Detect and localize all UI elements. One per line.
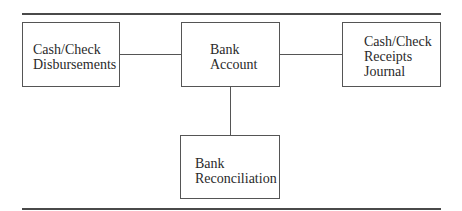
node-label-line: Receipts <box>364 49 440 64</box>
node-label-line: Account <box>210 57 279 72</box>
node-label-line: Bank <box>195 156 279 171</box>
edge-bank-account-to-receipts-journal <box>280 54 342 55</box>
edge-disbursements-to-bank-account <box>120 54 181 55</box>
node-label-line: Cash/Check <box>33 42 119 57</box>
edge-bank-account-to-reconciliation <box>230 87 231 135</box>
top-rule <box>22 13 441 15</box>
node-bank-account: Bank Account <box>181 22 280 87</box>
node-label-line: Cash/Check <box>364 34 440 49</box>
node-label-line: Reconciliation <box>195 171 279 186</box>
node-label-line: Journal <box>364 64 440 79</box>
node-disbursements: Cash/Check Disbursements <box>22 22 120 87</box>
node-reconciliation: Bank Reconciliation <box>180 135 280 199</box>
bottom-rule <box>22 208 441 210</box>
node-receipts-journal: Cash/Check Receipts Journal <box>342 22 441 87</box>
node-label-line: Bank <box>210 42 279 57</box>
node-label-line: Disbursements <box>33 57 119 72</box>
